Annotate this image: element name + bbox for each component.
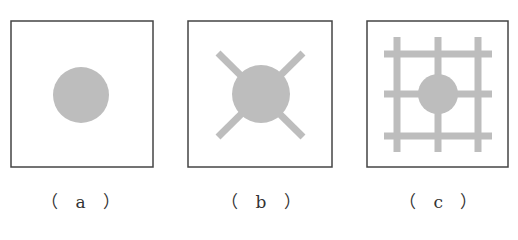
panel-b <box>188 21 332 167</box>
panel-a <box>11 21 153 167</box>
caption-c: （ c ） <box>399 188 479 213</box>
center-circle <box>53 67 109 123</box>
horizontal-bar <box>384 51 492 58</box>
panel-c <box>367 21 508 167</box>
center-circle <box>418 74 458 114</box>
caption-a: （ a ） <box>41 188 121 213</box>
caption-b: （ b ） <box>221 188 301 213</box>
center-circle <box>232 65 290 123</box>
horizontal-bar <box>384 133 492 140</box>
